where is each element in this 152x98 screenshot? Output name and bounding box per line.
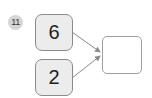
arrow-bottom-icon	[72, 56, 100, 78]
answer-box[interactable]	[102, 36, 142, 74]
arrow-top-icon	[72, 32, 100, 52]
